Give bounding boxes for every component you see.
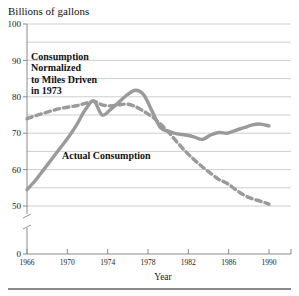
x-axis-ticks: 1966197019741978198219861990 <box>20 249 292 267</box>
x-tick-label: 1978 <box>141 258 156 267</box>
annotation-line-1: Consumption <box>31 51 97 62</box>
x-tick-label: 1986 <box>221 258 236 267</box>
x-tick-label: 1970 <box>60 258 75 267</box>
chart-figure: Billions of gallons 10090807060500 19661… <box>0 0 299 296</box>
x-axis-title: Year <box>154 272 172 282</box>
data-series-group <box>27 90 269 204</box>
y-tick-label: 50 <box>12 201 22 211</box>
bottom-rule <box>8 288 291 290</box>
annotation-actual-consumption: Actual Consumption <box>62 150 151 161</box>
annotation-line-2: Normalized <box>31 62 97 73</box>
chart-plot-area: 10090807060500 1966197019741978198219861… <box>0 0 299 296</box>
y-tick-label: 80 <box>12 92 22 102</box>
annotation-line-3: to Miles Driven <box>31 74 97 85</box>
x-tick-label: 1990 <box>262 258 277 267</box>
series-line-actual-consumption <box>27 90 269 189</box>
y-tick-label: 70 <box>12 128 22 138</box>
annotation-line-4: in 1973 <box>31 85 97 96</box>
x-tick-label: 1966 <box>20 258 35 267</box>
y-tick-label: 60 <box>12 165 22 175</box>
x-tick-label: 1982 <box>181 258 196 267</box>
y-tick-label: 90 <box>12 56 22 66</box>
y-tick-label: 100 <box>8 19 22 29</box>
x-tick-label: 1974 <box>100 258 115 267</box>
annotation-normalized-consumption: Consumption Normalized to Miles Driven i… <box>31 51 97 97</box>
y-axis-ticks: 10090807060500 <box>8 19 28 259</box>
